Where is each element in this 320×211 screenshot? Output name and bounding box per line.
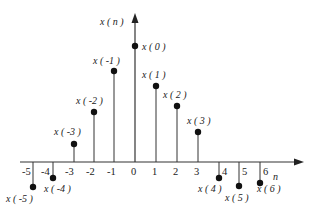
sample-dot	[91, 109, 97, 115]
tick-label: 4	[222, 166, 228, 177]
stem-n-minus-1: -1 x ( -1 )	[92, 55, 121, 177]
sample-dot	[71, 141, 77, 147]
sample-label: x ( 2 )	[162, 89, 187, 101]
sample-dot	[174, 103, 180, 109]
y-axis-arrow-icon	[132, 13, 139, 23]
tick-label: 0	[131, 166, 136, 177]
tick-label: -5	[22, 166, 31, 177]
stem-n-2: 2 x ( 2 )	[162, 89, 187, 177]
n-axis-label: n	[273, 171, 278, 182]
sample-label: x ( -5 )	[5, 193, 34, 205]
sample-label: x ( 0 )	[141, 41, 166, 53]
sample-dot	[30, 184, 36, 190]
tick-label: 3	[194, 166, 199, 177]
sample-label: x ( 3 )	[186, 115, 211, 127]
stems: -5 x ( -5 ) -4 x ( -4 ) -3 x ( -3 ) -2 x…	[5, 41, 281, 205]
tick-label: 6	[263, 166, 268, 177]
tick-label: 5	[242, 166, 247, 177]
sample-dot	[132, 43, 138, 49]
n-axis-arrow-icon	[294, 159, 304, 166]
stem-n-5: 5 x ( 5 )	[224, 162, 249, 204]
sample-label: x ( 6 )	[256, 183, 281, 195]
sample-label: x ( -1 )	[92, 55, 121, 67]
sample-dot	[111, 68, 117, 74]
sample-label: x ( 4 )	[197, 183, 222, 195]
stem-n-minus-3: -3 x ( -3 )	[53, 126, 82, 177]
sample-label: x ( -4 )	[43, 183, 72, 195]
sample-dot	[50, 175, 56, 181]
stem-n-4: 4 x ( 4 )	[197, 162, 228, 195]
sample-dot	[236, 183, 242, 189]
sample-label: x ( -3 )	[53, 126, 82, 138]
stem-n-3: 3 x ( 3 )	[186, 115, 211, 177]
tick-label: 1	[152, 166, 157, 177]
stem-n-minus-5: -5 x ( -5 )	[5, 162, 36, 205]
stem-plot: n x ( n ) -5 x ( -5 ) -4 x ( -4 ) -3 x (…	[0, 0, 320, 211]
tick-label: -3	[65, 166, 74, 177]
sample-dot	[195, 129, 201, 135]
sample-label: x ( 5 )	[224, 192, 249, 204]
y-axis-label: x ( n )	[99, 16, 124, 28]
tick-label: -4	[41, 166, 50, 177]
sample-label: x ( 1 )	[141, 69, 166, 81]
stem-n-1: 1 x ( 1 )	[141, 69, 166, 177]
sample-dot	[153, 83, 159, 89]
tick-label: -1	[107, 166, 116, 177]
tick-label: -2	[86, 166, 95, 177]
tick-label: 2	[173, 166, 178, 177]
stem-n-0: 0 x ( 0 )	[131, 41, 166, 177]
sample-label: x ( -2 )	[75, 95, 104, 107]
